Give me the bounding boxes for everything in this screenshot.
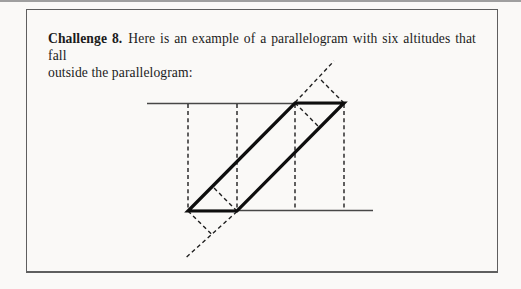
- challenge-box: Challenge 8.Here is an example of a para…: [26, 9, 498, 273]
- challenge-label: Challenge 8.: [48, 31, 122, 46]
- challenge-sentence-part2: outside the parallelogram:: [48, 64, 476, 81]
- page-top-edge-line: [0, 0, 521, 2]
- challenge-text: Challenge 8.Here is an example of a para…: [27, 10, 497, 81]
- page: Challenge 8.Here is an example of a para…: [0, 0, 521, 289]
- challenge-text-line1: Challenge 8.Here is an example of a para…: [48, 30, 476, 64]
